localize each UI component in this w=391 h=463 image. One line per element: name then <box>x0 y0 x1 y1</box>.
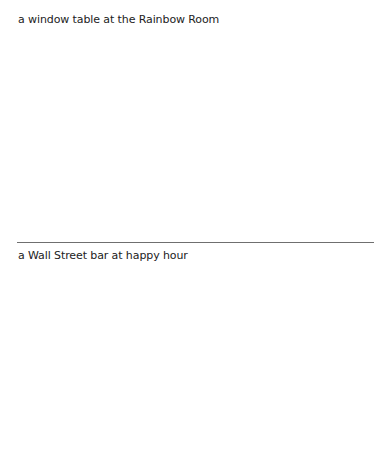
caption-wall-street-bar: a Wall Street bar at happy hour <box>18 249 188 263</box>
section-divider <box>17 242 374 243</box>
caption-rainbow-room: a window table at the Rainbow Room <box>18 13 219 27</box>
blank-image-area-2 <box>17 266 374 456</box>
blank-image-area-1 <box>17 30 374 235</box>
